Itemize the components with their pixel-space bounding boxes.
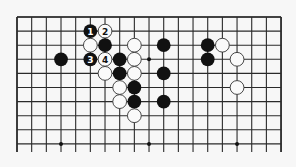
white-stone [215, 38, 229, 52]
white-stone-icon [127, 67, 141, 81]
black-stone-icon [157, 67, 171, 81]
black-stone [127, 81, 141, 95]
white-stone-icon [230, 81, 244, 95]
white-stone-icon [113, 81, 127, 95]
black-stone-icon [201, 38, 215, 52]
white-stone [127, 52, 141, 66]
white-stone-icon [215, 38, 229, 52]
black-stone-icon [157, 38, 171, 52]
white-stone [230, 81, 244, 95]
black-stone [127, 95, 141, 109]
black-stone-icon [157, 95, 171, 109]
black-stone [113, 52, 127, 66]
black-stone [98, 38, 112, 52]
white-stone-icon [230, 52, 244, 66]
white-stone: 4 [98, 52, 112, 66]
black-stone: 1 [83, 24, 97, 38]
black-stone-icon [113, 52, 127, 66]
black-stone-icon [113, 67, 127, 81]
star-point-icon [147, 57, 151, 61]
black-stone [157, 95, 171, 109]
white-stone-icon [127, 52, 141, 66]
white-stone [113, 81, 127, 95]
black-stone-icon [98, 38, 112, 52]
move-number-label: 2 [102, 27, 108, 37]
black-stone-icon [127, 81, 141, 95]
white-stone [83, 38, 97, 52]
white-stone-icon [113, 95, 127, 109]
move-number-label: 1 [87, 27, 93, 37]
white-stone: 2 [98, 24, 112, 38]
star-point-icon [147, 142, 151, 146]
black-stone [201, 38, 215, 52]
white-stone-icon [83, 38, 97, 52]
white-stone [127, 67, 141, 81]
white-stone-icon [127, 109, 141, 123]
black-stone [54, 52, 68, 66]
white-stone [98, 67, 112, 81]
go-board: 1234 [0, 0, 296, 167]
black-stone [157, 38, 171, 52]
white-stone [127, 38, 141, 52]
white-stone [127, 109, 141, 123]
move-number-label: 4 [102, 55, 108, 65]
star-point-icon [235, 142, 239, 146]
white-stone [230, 52, 244, 66]
black-stone-icon [127, 95, 141, 109]
white-stone [113, 95, 127, 109]
move-number-label: 3 [87, 55, 93, 65]
white-stone-icon [127, 38, 141, 52]
black-stone: 3 [83, 52, 97, 66]
black-stone [113, 67, 127, 81]
black-stone [157, 67, 171, 81]
black-stone-icon [201, 52, 215, 66]
white-stone-icon [98, 67, 112, 81]
black-stone [201, 52, 215, 66]
star-point-icon [59, 142, 63, 146]
black-stone-icon [54, 52, 68, 66]
